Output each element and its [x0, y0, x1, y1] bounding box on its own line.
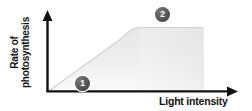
x-axis-label: Light intensity [159, 96, 228, 107]
annotation-badge-1: 1 [75, 76, 90, 91]
y-axis-label-line-1: Rate of [10, 7, 21, 99]
curve-fill-plateau-shade [140, 28, 203, 93]
y-axis-label: Rate of photosynthesis [10, 7, 31, 99]
photosynthesis-light-intensity-diagram: Rate of photosynthesis Light intensity 1… [0, 0, 252, 111]
annotation-badge-2: 2 [155, 7, 170, 22]
y-axis-label-line-2: photosynthesis [20, 7, 31, 99]
y-axis-arrowhead [43, 10, 53, 21]
x-axis-arrowhead [227, 86, 238, 96]
